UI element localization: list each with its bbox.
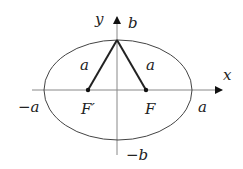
ellipse-diagram: y x b −b −a a a a F′ F: [0, 0, 243, 169]
focus-right-label: F: [144, 100, 156, 118]
left-segment-label: a: [80, 56, 89, 74]
focus-right-point: [144, 88, 148, 92]
right-vertex-label: a: [198, 98, 207, 116]
x-axis-label: x: [223, 66, 232, 84]
segment-left-focus-to-vertex: [88, 40, 117, 90]
focus-left-point: [86, 88, 90, 92]
left-vertex-label: −a: [18, 98, 40, 116]
focus-left-label: F′: [80, 100, 95, 118]
top-vertex-label: b: [128, 14, 138, 32]
segment-right-focus-to-vertex: [117, 40, 146, 90]
y-axis-label: y: [94, 10, 104, 28]
right-segment-label: a: [146, 56, 155, 74]
bottom-vertex-label: −b: [126, 146, 148, 164]
